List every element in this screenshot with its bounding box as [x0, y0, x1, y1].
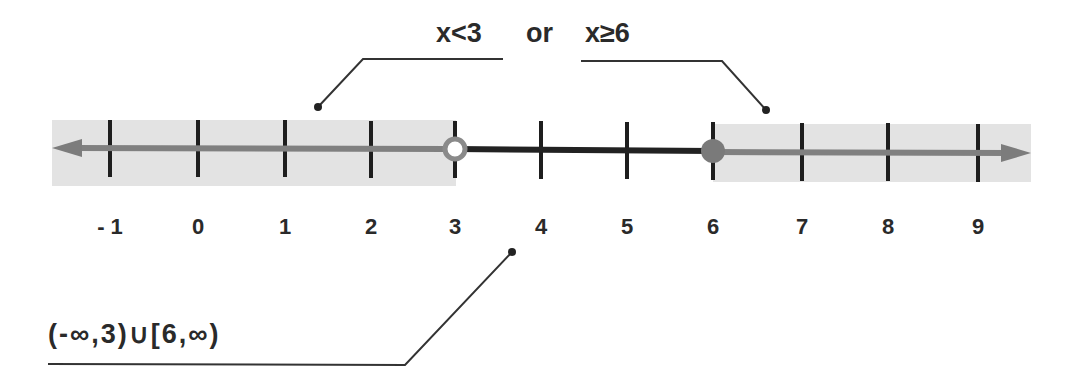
left-leader-line	[318, 59, 503, 107]
middle-segment	[455, 149, 713, 151]
tick-label: 4	[535, 214, 547, 240]
tick-label: 7	[796, 214, 808, 240]
left-leader-dot	[314, 103, 322, 111]
title-left-inequality: x<3	[436, 18, 482, 49]
left-shaded-region	[52, 120, 456, 186]
left-solution-ray	[72, 148, 448, 149]
interval-leader-dot	[508, 248, 516, 256]
interval-notation: (-∞,3)∪[6,∞)	[48, 318, 221, 350]
right-solution-ray	[713, 152, 1010, 153]
tick-label: 1	[279, 214, 291, 240]
tick-label: 9	[972, 214, 984, 240]
tick-label: 3	[449, 214, 461, 240]
tick-label: 8	[882, 214, 894, 240]
tick-label: 2	[365, 214, 377, 240]
open-point-3	[445, 139, 465, 159]
title-connector: or	[526, 18, 553, 49]
tick-label: 5	[621, 214, 633, 240]
number-line-diagram: x<3 or x≥6 - 1 0 1 2 3 4 5 6 7 8 9 (-∞,3…	[0, 0, 1077, 388]
title-right-inequality: x≥6	[585, 18, 630, 49]
closed-point-6	[701, 139, 725, 163]
tick-label: - 1	[97, 214, 123, 240]
tick-label: 0	[192, 214, 204, 240]
tick-label: 6	[707, 214, 719, 240]
right-leader-dot	[762, 106, 770, 114]
right-leader-line	[581, 61, 766, 110]
